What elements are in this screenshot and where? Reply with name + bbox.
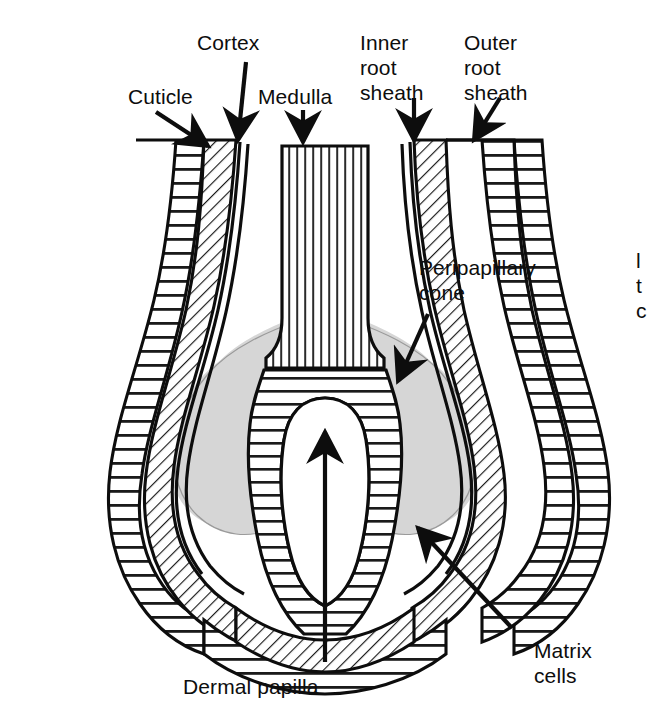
label-matrix-cells: Matrix cells — [534, 638, 592, 688]
label-peripapillary-cone: Peripapillary cone — [419, 255, 536, 305]
medulla-column — [266, 146, 384, 368]
label-dermal-papilla: Dermal papilla — [183, 674, 319, 699]
label-outer-root-sheath: Outer root sheath — [464, 30, 528, 105]
label-cut-off-right-margin: l t c — [636, 248, 650, 323]
arrow-cortex — [238, 62, 246, 140]
label-inner-root-sheath: Inner root sheath — [360, 30, 424, 105]
label-medulla: Medulla — [258, 84, 332, 109]
label-cuticle: Cuticle — [128, 84, 193, 109]
label-cortex: Cortex — [197, 30, 259, 55]
hair-follicle-diagram — [0, 0, 650, 727]
